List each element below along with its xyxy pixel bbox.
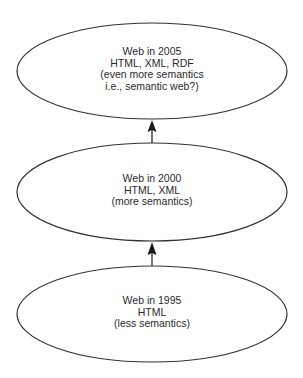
- node-web-2005-title: Web in 2005: [17, 46, 287, 58]
- arrow-1995-to-2000: [148, 242, 157, 266]
- arrow-2000-to-2005: [148, 120, 157, 143]
- node-web-1995-label: Web in 1995 HTML (less semantics): [17, 295, 287, 330]
- node-web-2000-note: (more semantics): [17, 196, 287, 208]
- node-web-2005-label: Web in 2005 HTML, XML, RDF (even more se…: [17, 46, 287, 92]
- node-web-1995-title: Web in 1995: [17, 295, 287, 307]
- node-web-2000-title: Web in 2000: [17, 173, 287, 185]
- node-web-2000-label: Web in 2000 HTML, XML (more semantics): [17, 173, 287, 208]
- node-web-2005-note: (even more semantics: [17, 69, 287, 81]
- node-web-1995-note: (less semantics): [17, 318, 287, 330]
- node-web-2005-note-2: i.e., semantic web?): [17, 81, 287, 93]
